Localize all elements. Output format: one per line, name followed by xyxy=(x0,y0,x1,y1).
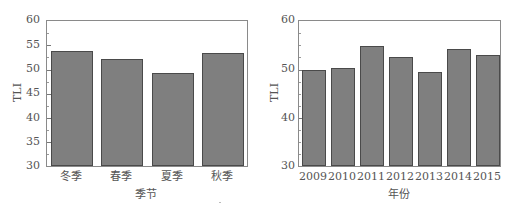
y-minor-tick xyxy=(299,130,301,131)
x-tick-label: 2014 xyxy=(444,171,472,183)
y-tick-label: 60 xyxy=(18,14,40,25)
y-minor-tick xyxy=(299,154,301,155)
y-minor-tick xyxy=(47,154,49,155)
y-tick xyxy=(47,45,51,46)
y-minor-tick xyxy=(47,106,49,107)
year-chart: TLI 60 50 40 30 2009 2010 2011 2012 2013… xyxy=(260,0,519,207)
x-tick-label: 春季 xyxy=(100,171,142,183)
y-tick-label: 50 xyxy=(18,63,40,74)
y-tick-label: 35 xyxy=(18,136,40,147)
season-chart: TLI 60 55 50 45 40 35 30 冬季 春季 夏季 秋季 季节 xyxy=(0,0,260,207)
bar-2014 xyxy=(447,49,471,166)
y-minor-tick xyxy=(299,142,301,143)
bar-2010 xyxy=(331,68,355,166)
x-tick-label: 2013 xyxy=(415,171,443,183)
y-minor-tick xyxy=(47,82,49,83)
bar-spring xyxy=(101,59,143,166)
y-minor-tick xyxy=(47,33,49,34)
y-minor-tick xyxy=(299,82,301,83)
y-tick-label: 30 xyxy=(273,160,295,171)
y-minor-tick xyxy=(299,45,301,46)
y-minor-tick xyxy=(47,57,49,58)
y-tick-label: 60 xyxy=(273,14,295,25)
x-tick-label: 夏季 xyxy=(151,171,193,183)
bar-summer xyxy=(152,73,194,166)
x-tick-label: 冬季 xyxy=(50,171,92,183)
x-tick-label: 2011 xyxy=(357,171,385,183)
bar-2012 xyxy=(389,57,413,166)
bar-2015 xyxy=(476,55,500,166)
y-minor-tick xyxy=(299,106,301,107)
bar-2011 xyxy=(360,46,384,166)
y-tick-label: 40 xyxy=(273,112,295,123)
y-minor-tick xyxy=(47,130,49,131)
y-tick-label: 50 xyxy=(273,63,295,74)
x-tick-label: 2009 xyxy=(299,171,327,183)
bar-2009 xyxy=(302,70,326,166)
x-tick-label: 2015 xyxy=(473,171,501,183)
y-minor-tick xyxy=(299,94,301,95)
season-plot-area xyxy=(46,20,248,167)
stray-mark xyxy=(219,202,221,203)
x-tick-label: 2010 xyxy=(328,171,356,183)
y-tick-label: 40 xyxy=(18,112,40,123)
season-x-axis-title: 季节 xyxy=(126,185,166,201)
x-tick-label: 秋季 xyxy=(201,171,243,183)
year-plot-area xyxy=(298,20,501,167)
y-minor-tick xyxy=(299,57,301,58)
year-x-axis-title: 年份 xyxy=(379,185,419,201)
y-minor-tick xyxy=(299,33,301,34)
y-tick-label: 55 xyxy=(18,39,40,50)
bar-autumn xyxy=(202,53,244,166)
y-tick-label: 45 xyxy=(18,87,40,98)
bar-winter xyxy=(51,51,93,166)
x-tick-label: 2012 xyxy=(386,171,414,183)
year-y-axis-title: TLI xyxy=(268,78,281,108)
y-tick-label: 30 xyxy=(18,160,40,171)
bar-2013 xyxy=(418,72,442,166)
